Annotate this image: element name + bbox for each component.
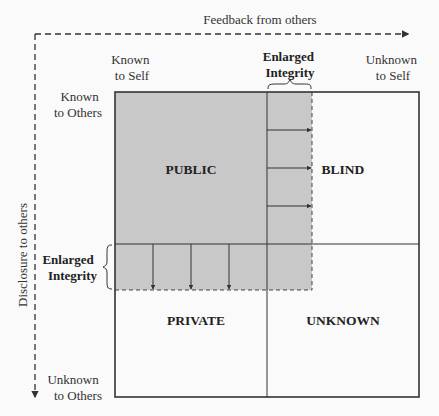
left-enlarged-integrity-label: Enlarged Integrity: [42, 252, 97, 283]
quadrant-private-label: PRIVATE: [167, 313, 225, 328]
left-brace: [103, 245, 112, 289]
column-header-unknown-to-self: Unknown to Self: [366, 52, 421, 83]
enlarged-public-area: [115, 92, 312, 290]
row-header-unknown-to-others: Unknown to Others: [47, 372, 102, 403]
johari-window-diagram: Feedback from others Disclosure to other…: [0, 0, 439, 416]
top-brace: [268, 79, 311, 89]
quadrant-blind-label: BLIND: [322, 162, 365, 177]
column-header-known-to-self: Known to Self: [111, 52, 153, 83]
disclosure-axis-label: Disclosure to others: [15, 203, 30, 307]
row-header-known-to-others: Known to Others: [54, 89, 102, 120]
quadrant-public-label: PUBLIC: [165, 162, 216, 177]
quadrant-unknown-label: UNKNOWN: [306, 313, 380, 328]
top-enlarged-integrity-label: Enlarged Integrity: [263, 49, 318, 80]
feedback-axis-label: Feedback from others: [203, 12, 316, 27]
